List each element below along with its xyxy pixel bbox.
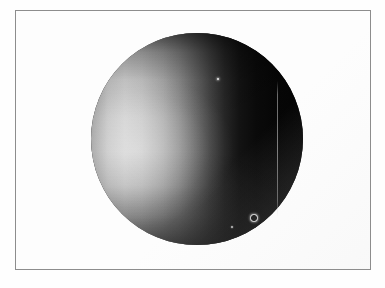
vertical-ring-edge bbox=[277, 81, 278, 217]
planet-disk-body bbox=[91, 33, 303, 245]
image-plate bbox=[0, 0, 385, 288]
planet-disk bbox=[91, 33, 303, 245]
figure-frame bbox=[15, 10, 371, 270]
moon-ringed-point bbox=[250, 214, 257, 221]
film-grain-texture bbox=[91, 33, 303, 245]
